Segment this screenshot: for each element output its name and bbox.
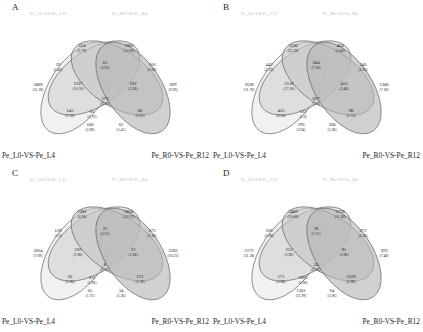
venn-diagram-a: 2009(11.38)224(1.79)1902(12.62)699(9.29)…: [0, 14, 211, 150]
region-percent: (1.96): [66, 280, 76, 284]
region-percent: (11.29): [288, 49, 299, 53]
venn-region-bcd: 1169(1.99): [346, 274, 356, 284]
venn-region-acd: 100(1.38): [328, 122, 338, 132]
region-count: 1300: [379, 82, 389, 87]
region-count: 464: [337, 43, 345, 48]
venn-region-ac: 2118(17.18): [284, 81, 296, 91]
region-percent: (10.78): [73, 87, 85, 91]
venn-panel-d: DPe_L4-VS-Pe_L12Pe_R0-VS-Pe_R4Pe_L0-VS-P…: [211, 166, 422, 332]
venn-diagram-d: 2172(11.38)3409(18.08)2750(11.36)393(7.4…: [211, 180, 422, 316]
region-percent: (1.79): [78, 49, 88, 53]
venn-region-acd: 64(1.96): [328, 288, 338, 298]
region-count: 2830: [124, 209, 134, 214]
region-percent: (11.99): [296, 294, 307, 298]
venn-region-a-only: 2172(11.38): [244, 248, 255, 258]
venn-diagram-b: 1638(11.78)1520(11.29)464(5.40)1300(7.18…: [211, 14, 422, 150]
region-count: 61: [103, 60, 108, 65]
bottom-set-label-left: Pe_L0-VS-Pe_L4: [213, 317, 266, 326]
region-percent: (1.96): [328, 294, 338, 298]
region-percent: (5.0): [312, 102, 320, 106]
venn-region-b-only: 1281(4.38): [77, 209, 87, 219]
venn-region-abc: 131(1.6): [299, 109, 307, 119]
region-count: 236: [75, 247, 83, 252]
region-percent: (1.96): [277, 280, 287, 284]
region-percent: (1.91): [101, 66, 111, 70]
region-percent: (1.21): [101, 232, 111, 236]
region-percent: (7.18): [312, 66, 322, 70]
region-count: 2009: [33, 82, 43, 87]
panel-letter-a: A: [12, 2, 19, 12]
region-count: 78: [314, 226, 319, 231]
region-count: 98: [349, 108, 354, 113]
region-count: 1902: [124, 43, 134, 48]
region-count: 86: [138, 108, 143, 113]
region-percent: (1.99): [347, 280, 357, 284]
venn-diagram-c: 1824(7.09)1281(4.38)2830(12.31)3183(16.3…: [0, 180, 211, 316]
region-percent: (1.98): [148, 68, 158, 72]
region-percent: (1.36): [117, 294, 127, 298]
region-percent: (2.98): [86, 128, 96, 132]
region-count: 65: [88, 288, 93, 293]
region-percent: (12.62): [124, 49, 136, 53]
region-count: 346: [360, 62, 368, 67]
region-count: 19: [56, 62, 61, 67]
region-percent: (1.96): [359, 68, 369, 72]
region-percent: (1.72): [86, 294, 96, 298]
region-percent: (1.78): [136, 280, 146, 284]
region-percent: (1.38): [359, 234, 369, 238]
bottom-set-label-right: Pe_R0-VS-Pe_R12: [363, 317, 421, 326]
venn-region-cd: 166(1.98): [148, 62, 158, 72]
region-percent: (7.19): [66, 114, 76, 118]
region-percent: (1.38): [328, 128, 338, 132]
region-count: 64: [330, 288, 335, 293]
region-count: 1281: [77, 209, 87, 214]
bottom-set-label-left: Pe_L0-VS-Pe_L4: [213, 151, 266, 160]
venn-region-a-only: 1638(11.78): [244, 82, 255, 92]
region-count: 232: [286, 247, 294, 252]
region-count: 24: [314, 262, 319, 267]
region-percent: (1.38): [129, 253, 139, 257]
region-count: 131: [300, 109, 308, 114]
region-count: 2750: [335, 209, 345, 214]
region-count: 129: [55, 228, 63, 233]
venn-region-acd: 62(1.41): [117, 122, 127, 132]
region-percent: (9.29): [169, 88, 179, 92]
region-percent: (2.94): [297, 128, 307, 132]
venn-region-abcd: 637(5.0): [312, 96, 320, 106]
region-count: 196: [298, 122, 306, 127]
venn-region-c-only: 1902(12.62): [124, 43, 136, 53]
region-count: 224: [79, 43, 87, 48]
region-percent: (1.31): [101, 268, 111, 272]
region-count: 1520: [288, 43, 298, 48]
venn-region-c-only: 2830(12.31): [124, 209, 136, 219]
region-percent: (2.72): [265, 68, 275, 72]
panel-letter-d: D: [223, 168, 230, 178]
region-percent: (11.38): [244, 254, 255, 258]
region-count: 166: [266, 228, 274, 233]
region-percent: (17.18): [284, 87, 296, 91]
region-count: 272: [149, 228, 157, 233]
venn-region-abd: 65(1.72): [86, 288, 96, 298]
region-percent: (1.6): [299, 115, 307, 119]
region-count: 2118: [284, 81, 294, 86]
region-percent: (1.19): [88, 115, 98, 119]
region-count: 435: [278, 108, 286, 113]
venn-region-b-only: 3409(18.08): [288, 209, 300, 219]
venn-panel-a: APe_L0-VS-Pe_L12Pe_R0-VS-Pe_R4Pe_L0-VS-P…: [0, 0, 211, 166]
region-percent: (11.78): [244, 88, 255, 92]
bottom-set-label-left: Pe_L0-VS-Pe_L4: [2, 151, 55, 160]
region-count: 61: [90, 109, 95, 114]
venn-region-cd: 272(1.28): [148, 228, 158, 238]
region-count: 34: [119, 288, 124, 293]
region-count: 166: [149, 62, 157, 67]
venn-panel-c: CPe_L4-VS-Pe_L12Pe_R0-VS-Pe_R4Pe_L0-VS-P…: [0, 166, 211, 332]
region-count: 699: [170, 82, 178, 87]
venn-region-ab: 129(1.2): [54, 228, 62, 238]
region-count: 271: [137, 274, 145, 279]
venn-region-b-only: 1520(11.29): [288, 43, 299, 53]
region-count: 3409: [288, 209, 298, 214]
region-percent: (1.41): [117, 128, 127, 132]
venn-region-a-only: 1824(7.09): [33, 248, 43, 258]
region-count: 1301: [296, 288, 306, 293]
region-percent: (18.08): [288, 215, 300, 219]
